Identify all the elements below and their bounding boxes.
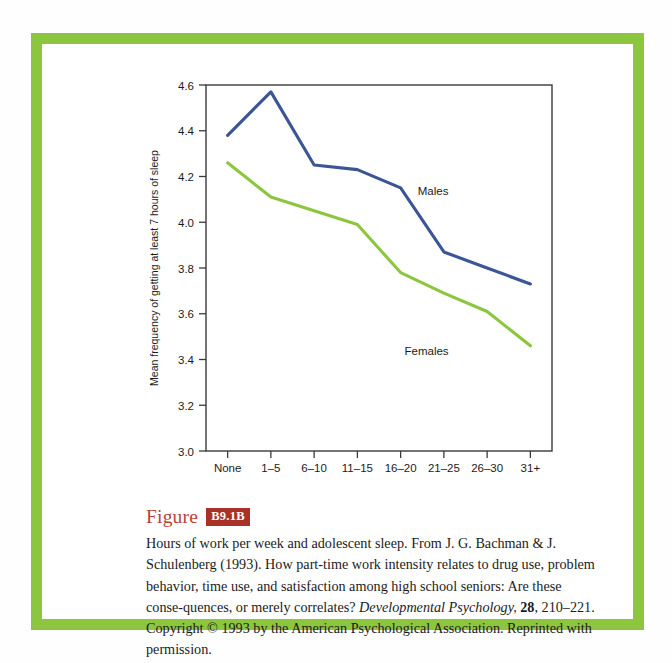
- plot-area-border: [206, 85, 552, 451]
- x-axis-tick-label: 26–30: [471, 462, 503, 474]
- x-axis-tick-label: 16–20: [385, 462, 417, 474]
- caption-heading: Figure B9.1B: [146, 506, 601, 528]
- y-axis-tick-label: 3.8: [178, 263, 194, 275]
- series-label-males: Males: [418, 185, 449, 197]
- y-axis-tick-label: 3.0: [178, 446, 194, 458]
- series-label-females: Females: [405, 345, 449, 357]
- figure-page: 3.03.23.43.63.84.04.24.44.6None1–56–1011…: [0, 0, 672, 663]
- x-axis-tick-label: 11–15: [342, 462, 373, 474]
- line-chart: 3.03.23.43.63.84.04.24.44.6None1–56–1011…: [42, 44, 633, 474]
- x-axis-tick-label: 21–25: [428, 462, 460, 474]
- x-axis-tick-label: None: [214, 462, 242, 474]
- y-axis-tick-label: 4.4: [178, 125, 195, 137]
- x-axis-tick-label: 6–10: [301, 462, 327, 474]
- y-axis-title: Mean frequency of getting at least 7 hou…: [148, 150, 160, 386]
- figure-caption: Figure B9.1B Hours of work per week and …: [146, 506, 601, 661]
- caption-body-text: Hours of work per week and adolescent sl…: [146, 533, 601, 661]
- journal-name: Developmental Psychology,: [359, 599, 517, 615]
- y-axis-tick-label: 4.0: [178, 217, 194, 229]
- y-axis-tick-label: 4.2: [178, 171, 194, 183]
- green-decorative-frame: 3.03.23.43.63.84.04.24.44.6None1–56–1011…: [31, 33, 644, 630]
- y-axis-tick-label: 3.2: [178, 400, 194, 412]
- x-axis-tick-label: 1–5: [261, 462, 280, 474]
- figure-number-badge: B9.1B: [206, 508, 250, 525]
- y-axis-tick-label: 4.6: [178, 80, 194, 92]
- y-axis-tick-label: 3.6: [178, 308, 194, 320]
- journal-volume: 28: [520, 599, 534, 615]
- y-axis-tick-label: 3.4: [178, 354, 195, 366]
- x-axis-tick-label: 31+: [521, 462, 541, 474]
- figure-label: Figure: [146, 506, 198, 528]
- frame-inner-surface: 3.03.23.43.63.84.04.24.44.6None1–56–1011…: [42, 44, 633, 619]
